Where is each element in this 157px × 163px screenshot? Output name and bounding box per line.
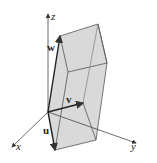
x-axis-label: x [15,140,21,152]
parallelepiped-faces [48,24,107,150]
vector-w-label: w [47,41,55,53]
parallelepiped-diagram: z x y u v w [0,0,157,163]
y-axis-label: y [130,140,136,152]
vector-u-label: u [43,124,49,136]
z-axis-label: z [50,10,56,22]
vector-v-label: v [66,93,72,105]
